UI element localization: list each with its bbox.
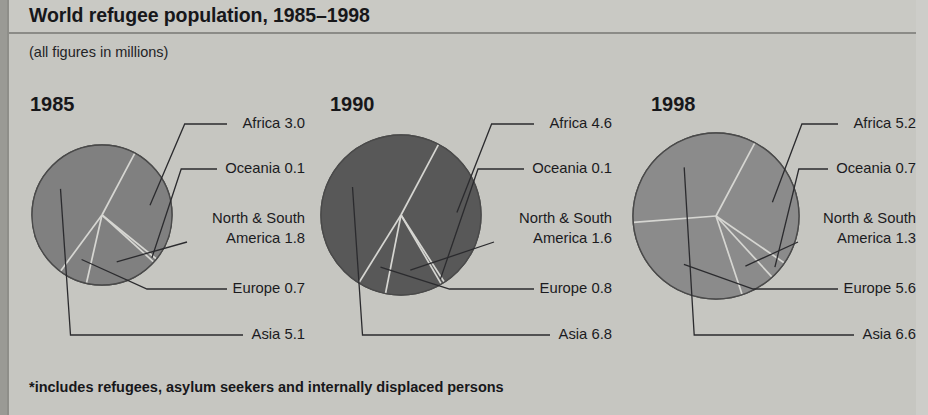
slice-label-1998-africa: Africa 5.2: [0, 115, 916, 131]
slice-label-1998-oceania: Oceania 0.7: [0, 160, 916, 176]
slice-label-1998-europe: Europe 5.6: [0, 280, 916, 296]
year-heading-1990: 1990: [330, 93, 375, 116]
year-heading-1985: 1985: [30, 93, 75, 116]
year-heading-1998: 1998: [651, 93, 696, 116]
slice-label-line1: North & South: [0, 209, 916, 229]
slice-label-line2: America 1.3: [0, 229, 916, 249]
pie-charts-canvas: [0, 0, 928, 415]
slice-label-1998-north-south-america: North & South America 1.3: [0, 209, 916, 249]
slice-label-1998-asia: Asia 6.6: [0, 326, 916, 342]
footnote: *includes refugees, asylum seekers and i…: [29, 379, 504, 395]
figure-root: World refugee population, 1985–1998 (all…: [0, 0, 928, 415]
